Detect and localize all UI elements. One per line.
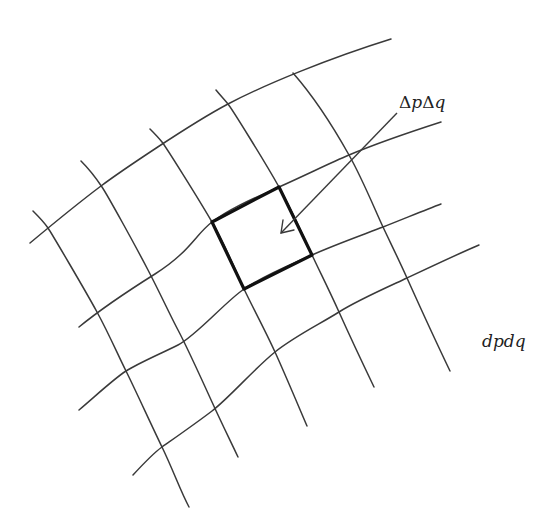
p-curve-5 [293,73,450,371]
highlighted-area-element [212,187,312,289]
q-curve-2 [79,122,441,327]
q-curve-1 [30,39,391,243]
dpdq-label: dpdq [482,331,526,351]
delta-p-delta-q-label: ΔpΔq [399,92,445,112]
q-curve-4 [133,245,479,475]
p-curve-3 [150,129,307,426]
pointer-arrow [281,113,397,233]
p-curve-2 [81,161,238,457]
curvilinear-grid-diagram: ΔpΔq dpdq [0,0,552,529]
p-curve-1 [33,211,189,507]
arrow-shaft [281,113,397,233]
p-curve-4 [216,90,374,387]
